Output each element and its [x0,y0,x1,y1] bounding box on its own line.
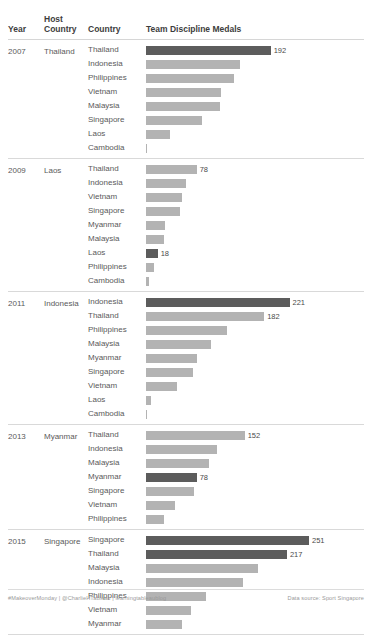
group-host-country: Laos [44,162,88,288]
bar[interactable] [146,431,245,440]
bar-row[interactable]: Malaysia [88,99,364,113]
chart-footer: #MakeoverMonday | @CharlieHTableau | lea… [8,589,364,601]
bar-value-label: 182 [267,312,280,321]
bar-row[interactable]: Malaysia [88,456,364,470]
bar-row-country: Malaysia [88,456,146,470]
bar-row[interactable]: Indonesia [88,176,364,190]
bar-row[interactable]: Philippines [88,323,364,337]
bar-track: 251 [146,533,364,547]
bar-row[interactable]: Thailand78 [88,162,364,176]
bar-row[interactable]: Vietnam [88,190,364,204]
bar[interactable] [146,410,147,419]
bar-row[interactable]: Thailand182 [88,309,364,323]
bar-row[interactable]: Malaysia [88,232,364,246]
bar-row[interactable]: Vietnam [88,379,364,393]
year-group: 2015SingaporeSingapore251Thailand217Mala… [8,530,364,635]
bar-row[interactable]: Thailand192 [88,43,364,57]
bar-row-country: Singapore [88,365,146,379]
bar[interactable] [146,60,240,69]
bar-row-country: Indonesia [88,295,146,309]
bar[interactable] [146,459,209,468]
bar-row[interactable]: Singapore [88,365,364,379]
bar[interactable] [146,550,287,559]
bar[interactable] [146,501,175,510]
bar[interactable] [146,249,158,258]
bar[interactable] [146,340,211,349]
bar[interactable] [146,515,164,524]
bar-row-country: Malaysia [88,561,146,575]
bar[interactable] [146,221,165,230]
bar[interactable] [146,354,197,363]
bar-track [146,141,364,155]
bar[interactable] [146,382,177,391]
bar-row[interactable]: Myanmar78 [88,470,364,484]
bar[interactable] [146,473,197,482]
bar[interactable] [146,193,182,202]
bar[interactable] [146,487,194,496]
bar-row[interactable]: Singapore [88,484,364,498]
bar-row[interactable]: Vietnam [88,85,364,99]
bar[interactable] [146,620,182,629]
bar-row[interactable]: Philippines [88,71,364,85]
bar[interactable] [146,564,258,573]
bar-row[interactable]: Malaysia [88,561,364,575]
bar-row[interactable]: Singapore251 [88,533,364,547]
bar-row[interactable]: Myanmar [88,617,364,631]
bar[interactable] [146,536,309,545]
header-measure: Team Discipline Medals [146,24,364,34]
bar[interactable] [146,326,227,335]
bar[interactable] [146,445,217,454]
bar-row[interactable]: Indonesia [88,442,364,456]
bar[interactable] [146,165,197,174]
year-group: 2007ThailandThailand192IndonesiaPhilippi… [8,40,364,159]
bar-row[interactable]: Laos [88,393,364,407]
bar-row[interactable]: Cambodia [88,407,364,421]
bar[interactable] [146,277,149,286]
bar-row[interactable]: Philippines [88,260,364,274]
bar[interactable] [146,396,151,405]
bar[interactable] [146,606,191,615]
bar-row[interactable]: Myanmar [88,351,364,365]
bar-row[interactable]: Vietnam [88,498,364,512]
bar-row[interactable]: Malaysia [88,337,364,351]
bar-track [146,407,364,421]
bar-row[interactable]: Indonesia [88,575,364,589]
bar-value-label: 251 [312,536,325,545]
bar-row[interactable]: Cambodia [88,141,364,155]
bar-row-country: Indonesia [88,442,146,456]
bar[interactable] [146,298,290,307]
chart-groups: 2007ThailandThailand192IndonesiaPhilippi… [0,40,372,635]
bar-row[interactable]: Cambodia [88,274,364,288]
bar-row[interactable]: Indonesia221 [88,295,364,309]
bar-row[interactable]: Myanmar [88,218,364,232]
bar-row[interactable]: Thailand217 [88,547,364,561]
bar-row[interactable]: Indonesia [88,57,364,71]
bar-row-country: Malaysia [88,337,146,351]
bar-row[interactable]: Vietnam [88,603,364,617]
bar[interactable] [146,368,193,377]
bar[interactable] [146,235,164,244]
bar[interactable] [146,179,186,188]
bar[interactable] [146,207,180,216]
bar-row[interactable]: Singapore [88,204,364,218]
bar-row[interactable]: Laos [88,127,364,141]
bar[interactable] [146,88,221,97]
bar[interactable] [146,74,234,83]
bar-row[interactable]: Philippines [88,512,364,526]
group-rows: Indonesia221Thailand182PhilippinesMalays… [88,295,364,421]
bar-row[interactable]: Thailand152 [88,428,364,442]
bar-track [146,176,364,190]
bar[interactable] [146,102,220,111]
bar-track [146,274,364,288]
bar[interactable] [146,312,264,321]
bar[interactable] [146,46,271,55]
bar[interactable] [146,578,243,587]
bar[interactable] [146,116,202,125]
bar-row[interactable]: Singapore [88,113,364,127]
bar-row[interactable]: Laos18 [88,246,364,260]
bar[interactable] [146,130,170,139]
bar[interactable] [146,263,154,272]
bar[interactable] [146,144,147,153]
group-year: 2009 [8,162,44,288]
bar-row-country: Philippines [88,323,146,337]
